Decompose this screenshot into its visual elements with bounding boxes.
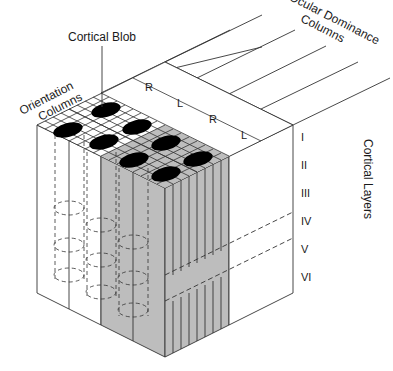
layer-6: VI — [301, 271, 311, 283]
layer-2: II — [301, 159, 307, 171]
cortical-layers-label: Cortical Layers — [361, 139, 375, 219]
layer-5: V — [301, 243, 309, 255]
layer-1: I — [301, 131, 304, 143]
ocular-col-3: R — [209, 113, 217, 125]
layer-3: III — [301, 187, 310, 199]
layer-4: IV — [301, 215, 312, 227]
cortical-column-diagram: Cortical Blob Orientation Columns Ocular… — [0, 0, 393, 371]
cortical-blob-label: Cortical Blob — [68, 30, 136, 44]
right-face-white — [229, 125, 293, 325]
ocular-col-1: R — [145, 81, 153, 93]
ocular-col-4: L — [241, 129, 247, 141]
ocular-col-2: L — [177, 97, 183, 109]
